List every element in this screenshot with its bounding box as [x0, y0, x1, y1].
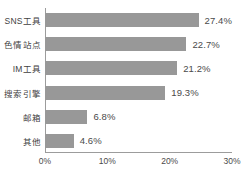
category-label: 其他: [0, 129, 41, 153]
bar-chart: SNS工具 色情站点 IM工具 搜索引擎 邮箱 其他 27.4% 22.7% 2…: [0, 0, 246, 178]
bar: [45, 134, 74, 148]
category-label: 邮箱: [0, 105, 41, 129]
category-label: 色情站点: [0, 32, 41, 56]
bar-value-label: 6.8%: [93, 111, 115, 122]
plot-area: 27.4% 22.7% 21.2% 19.3% 6.8% 4.6%: [45, 8, 232, 153]
bar-value-label: 22.7%: [192, 39, 219, 50]
bar-row: 19.3%: [45, 81, 232, 105]
category-label: SNS工具: [0, 8, 41, 32]
bar-row: 6.8%: [45, 105, 232, 129]
bar-value-label: 19.3%: [171, 87, 198, 98]
category-label: IM工具: [0, 56, 41, 80]
category-axis-labels: SNS工具 色情站点 IM工具 搜索引擎 邮箱 其他: [0, 8, 41, 153]
bar: [45, 13, 199, 27]
bar-value-label: 27.4%: [205, 15, 232, 26]
x-tick-label: 10%: [99, 156, 116, 166]
bar-row: 21.2%: [45, 56, 232, 80]
bar-rows: 27.4% 22.7% 21.2% 19.3% 6.8% 4.6%: [45, 8, 232, 153]
x-tick-label: 20%: [161, 156, 178, 166]
x-tick-label: 0%: [39, 156, 51, 166]
bar: [45, 110, 87, 124]
x-tick-label: 30%: [223, 156, 240, 166]
category-label: 搜索引擎: [0, 81, 41, 105]
bar: [45, 86, 165, 100]
bar-value-label: 21.2%: [183, 63, 210, 74]
bar-row: 22.7%: [45, 32, 232, 56]
x-axis-tick-labels: 0% 10% 20% 30%: [45, 156, 232, 170]
bar-value-label: 4.6%: [80, 135, 102, 146]
bar: [45, 61, 177, 75]
bar-row: 4.6%: [45, 129, 232, 153]
bar: [45, 37, 186, 51]
bar-row: 27.4%: [45, 8, 232, 32]
